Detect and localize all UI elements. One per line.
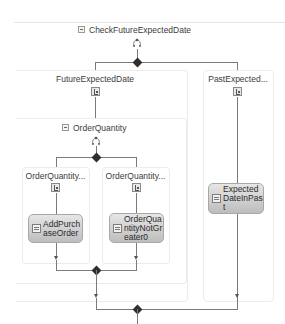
sequence-icon (132, 183, 141, 192)
sequence-icon (233, 87, 242, 96)
branch-title: OrderQuantity... (22, 171, 89, 181)
parallel-icon (91, 136, 101, 145)
code-activity-icon (113, 224, 122, 233)
connector-line (95, 97, 96, 118)
parallel-icon (132, 38, 142, 47)
parallel-title[interactable]: OrderQuantity (62, 123, 126, 133)
collapse-icon[interactable] (78, 26, 85, 33)
collapse-icon[interactable] (62, 124, 69, 131)
activity-order-quantity-not-greater-0[interactable]: OrderQuantityNotGreater0 (109, 213, 164, 243)
connector-line (96, 298, 97, 309)
connector-line (56, 260, 57, 270)
activity-add-purchase-order[interactable]: AddPurchaseOrder (28, 214, 83, 243)
connector-line (95, 62, 238, 63)
sequence-icon (91, 87, 100, 96)
connector-line (96, 309, 238, 310)
connector-line (137, 309, 138, 324)
branch-title: FutureExpectedDate (50, 74, 140, 84)
connector-line (56, 193, 57, 215)
connector-line (237, 297, 238, 309)
root-activity-title[interactable]: CheckFutureExpectedDate (78, 25, 191, 35)
code-activity-icon (32, 224, 41, 233)
activity-expected-date-in-past[interactable]: ExpectedDateInPast (208, 183, 264, 214)
branch-title: PastExpected... (203, 74, 273, 84)
sequence-icon (51, 183, 60, 192)
code-activity-icon (212, 194, 221, 203)
root-container-border (14, 22, 285, 23)
connector-line (96, 270, 97, 296)
branch-title: OrderQuantity... (102, 171, 169, 181)
connector-line (136, 193, 137, 215)
fork-diamond (132, 57, 142, 67)
connector-line (136, 260, 137, 270)
